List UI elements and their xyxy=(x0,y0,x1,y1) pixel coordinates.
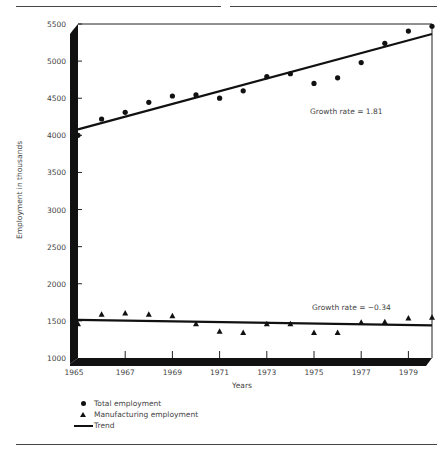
total-employment-point xyxy=(359,60,364,65)
total-employment-point xyxy=(335,75,340,80)
y-tick-label: 2000 xyxy=(47,280,66,289)
total-employment-point xyxy=(241,88,246,93)
x-axis-title: Years xyxy=(231,381,252,390)
manufacturing-employment-point xyxy=(311,329,317,335)
x-tick-label: 1975 xyxy=(304,368,323,377)
y-tick-label: 1000 xyxy=(47,354,66,363)
trend-line-icon xyxy=(74,425,93,427)
manufacturing-employment-point xyxy=(217,328,223,334)
manufacturing-employment-point xyxy=(358,319,364,325)
legend: Total employment Manufacturing employmen… xyxy=(72,398,198,431)
total-employment-point xyxy=(406,28,411,33)
manufacturing-employment-point xyxy=(169,313,175,319)
growth-rate-manufacturing: Growth rate = −0.34 xyxy=(312,303,391,312)
y-tick-label: 4000 xyxy=(47,131,66,140)
manufacturing-employment-point xyxy=(146,311,152,317)
legend-label-trend: Trend xyxy=(94,420,115,431)
manufacturing-employment-point xyxy=(405,315,411,321)
footer-rule xyxy=(16,444,437,445)
x-tick-label: 1973 xyxy=(257,368,276,377)
legend-label-manufacturing: Manufacturing employment xyxy=(94,409,198,420)
chart: 1000150020002500300035004000450050005500… xyxy=(0,0,447,400)
x-tick-label: 1971 xyxy=(210,368,229,377)
x-tick-label: 1967 xyxy=(116,368,135,377)
manufacturing-employment-point xyxy=(382,319,388,325)
y-tick-label: 5500 xyxy=(47,20,66,29)
total-employment-point xyxy=(264,74,269,79)
data-points xyxy=(75,24,435,335)
total-employment-point xyxy=(99,116,104,121)
manufacturing-employment-point xyxy=(122,310,128,316)
x-tick-label: 1977 xyxy=(352,368,371,377)
total-employment-point xyxy=(75,133,80,138)
trend-lines xyxy=(78,34,432,325)
trend-line xyxy=(78,320,432,326)
y-tick-label: 5000 xyxy=(47,57,66,66)
triangle-marker-icon xyxy=(80,412,86,417)
y-tick-label: 1500 xyxy=(47,317,66,326)
legend-label-total: Total employment xyxy=(94,398,161,409)
manufacturing-employment-point xyxy=(335,329,341,335)
legend-item-manufacturing: Manufacturing employment xyxy=(72,409,198,420)
y-axis-title: Employment in thousands xyxy=(15,141,24,239)
legend-item-total: Total employment xyxy=(72,398,198,409)
x-tick-label: 1965 xyxy=(64,368,83,377)
total-employment-point xyxy=(193,92,198,97)
manufacturing-employment-point xyxy=(99,311,105,317)
total-employment-point xyxy=(217,96,222,101)
circle-marker-icon xyxy=(81,401,86,406)
x-tick-label: 1979 xyxy=(399,368,418,377)
legend-item-trend: Trend xyxy=(72,420,198,431)
total-employment-point xyxy=(146,100,151,105)
y-tick-label: 2500 xyxy=(47,243,66,252)
total-employment-point xyxy=(170,93,175,98)
total-employment-point xyxy=(429,24,434,29)
x-tick-label: 1969 xyxy=(163,368,182,377)
manufacturing-employment-point xyxy=(240,329,246,335)
manufacturing-employment-point xyxy=(429,314,435,320)
left-wall xyxy=(70,24,78,364)
total-employment-point xyxy=(288,71,293,76)
total-employment-point xyxy=(123,110,128,115)
y-tick-label: 3500 xyxy=(47,168,66,177)
total-employment-point xyxy=(382,41,387,46)
y-tick-label: 4500 xyxy=(47,94,66,103)
y-tick-label: 3000 xyxy=(47,206,66,215)
growth-rate-total: Growth rate = 1.81 xyxy=(310,107,383,116)
bottom-base xyxy=(70,358,432,366)
total-employment-point xyxy=(311,81,316,86)
